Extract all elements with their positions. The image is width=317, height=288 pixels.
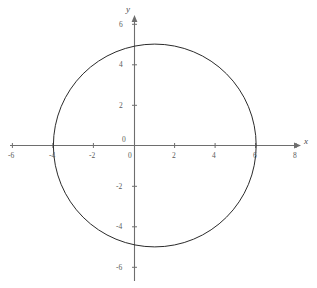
- y-tick-label-neg2: -2: [116, 183, 122, 191]
- x-tick-label-neg6: -6: [8, 152, 14, 160]
- graph-figure: -6 -4 -2 0 2 4 6 8 6 4 2 0 -2 -4 -6 x y: [0, 0, 317, 288]
- x-tick-label-neg2: -2: [89, 152, 95, 160]
- y-tick-label-neg6: -6: [116, 264, 122, 272]
- coordinate-plane-svg: [0, 0, 317, 288]
- y-tick-label-zero: 0: [122, 136, 126, 144]
- x-tick-label-pos6: 6: [253, 152, 257, 160]
- x-tick-label-zero: 0: [128, 152, 132, 160]
- y-tick-label-pos4: 4: [119, 61, 123, 69]
- x-tick-label-pos2: 2: [172, 152, 176, 160]
- x-tick-label-pos4: 4: [212, 152, 216, 160]
- y-tick-label-pos6: 6: [119, 21, 123, 29]
- y-axis: [132, 15, 138, 281]
- x-axis-label: x: [304, 137, 308, 146]
- y-tick-label-neg4: -4: [116, 223, 122, 231]
- y-tick-label-pos2: 2: [119, 102, 123, 110]
- x-tick-label-pos8: 8: [293, 152, 297, 160]
- y-axis-label: y: [126, 5, 130, 14]
- x-tick-label-neg4: -4: [49, 152, 55, 160]
